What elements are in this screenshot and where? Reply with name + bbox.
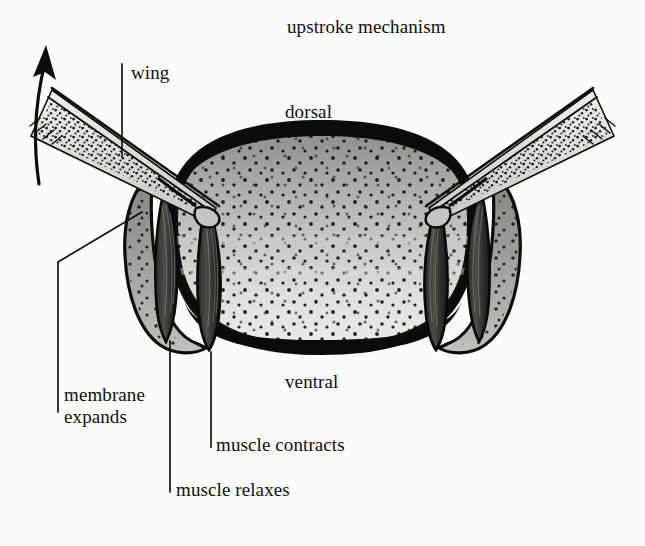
figure-title: upstroke mechanism [287, 16, 446, 38]
label-muscle-contracts: muscle contracts [216, 434, 345, 456]
label-muscle-relaxes: muscle relaxes [176, 479, 290, 501]
label-membrane-expands: membrane expands [64, 384, 145, 427]
label-membrane-expands-line2: expands [64, 406, 145, 428]
label-ventral: ventral [285, 371, 338, 393]
anatomical-illustration [0, 0, 645, 546]
upstroke-mechanism-figure: upstroke mechanism dorsal ventral wing m… [0, 0, 645, 546]
label-dorsal: dorsal [285, 101, 332, 123]
label-wing: wing [131, 62, 169, 84]
label-membrane-expands-line1: membrane [64, 384, 145, 406]
